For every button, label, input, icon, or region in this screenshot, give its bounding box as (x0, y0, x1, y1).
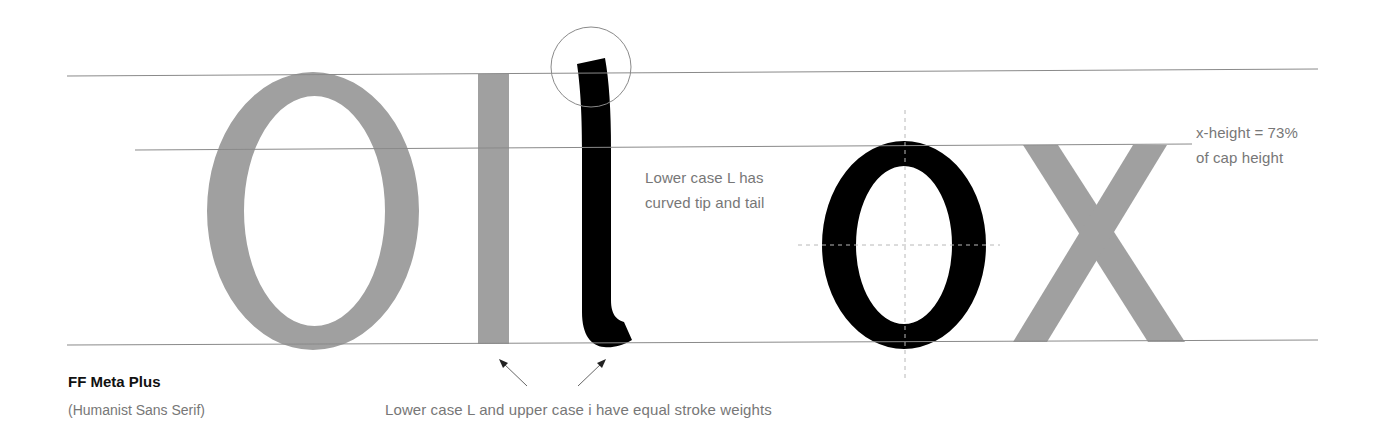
cap-height-line (67, 69, 1318, 76)
xheight-note-line1: x-height = 73% (1196, 124, 1298, 142)
font-name: FF Meta Plus (68, 373, 161, 391)
xheight-note-line2: of cap height (1196, 149, 1283, 167)
font-classification: (Humanist Sans Serif) (68, 401, 205, 419)
glyph-lowercase-x (1013, 145, 1185, 342)
lowercase-l-note-line2: curved tip and tail (645, 194, 764, 212)
arrow-to-lowercase-l (578, 359, 606, 386)
stroke-weight-note: Lower case L and upper case i have equal… (385, 401, 772, 419)
glyph-lowercase-l (577, 58, 632, 347)
lowercase-l-note-line1: Lower case L has (645, 169, 764, 187)
typeface-anatomy-diagram: Lower case L has curved tip and tail x-h… (0, 0, 1390, 423)
arrow-to-uppercase-i (499, 359, 527, 386)
glyph-uppercase-o (207, 72, 419, 350)
baseline-line (67, 340, 1318, 345)
glyph-uppercase-i (478, 74, 509, 344)
